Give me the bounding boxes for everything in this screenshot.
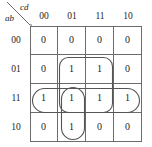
kmap-cell-r2c1[interactable]: 1 xyxy=(58,84,86,113)
column-header-3: 10 xyxy=(114,10,142,24)
karnaugh-map: cd ab 00 01 11 10 00 01 11 10 0 0 0 0 0 … xyxy=(0,0,152,147)
kmap-cell-r2c2[interactable]: 1 xyxy=(86,84,114,113)
column-header-0: 00 xyxy=(30,10,58,24)
column-variable-label: cd xyxy=(20,3,29,12)
kmap-cell-r0c0[interactable]: 0 xyxy=(30,26,58,55)
row-header-1: 01 xyxy=(4,55,28,84)
kmap-cell-r0c2[interactable]: 0 xyxy=(86,26,114,55)
column-header-1: 01 xyxy=(58,10,86,24)
row-header-0: 00 xyxy=(4,26,28,55)
kmap-cell-r1c0[interactable]: 0 xyxy=(30,55,58,84)
kmap-cell-r2c0[interactable]: 1 xyxy=(30,84,58,113)
kmap-cell-r0c3[interactable]: 0 xyxy=(114,26,142,55)
kmap-cell-r1c2[interactable]: 1 xyxy=(86,55,114,84)
kmap-cell-r3c1[interactable]: 1 xyxy=(58,113,86,142)
column-header-2: 11 xyxy=(86,10,114,24)
kmap-grid: 0 0 0 0 0 1 1 0 1 1 1 1 0 1 0 0 xyxy=(30,26,142,142)
row-variable-label: ab xyxy=(5,14,14,23)
kmap-cell-r3c2[interactable]: 0 xyxy=(86,113,114,142)
kmap-cell-r0c1[interactable]: 0 xyxy=(58,26,86,55)
kmap-cell-r2c3[interactable]: 1 xyxy=(114,84,142,113)
axis-variable-corner: cd ab xyxy=(4,1,32,26)
kmap-cell-r3c3[interactable]: 0 xyxy=(114,113,142,142)
kmap-cell-r1c3[interactable]: 0 xyxy=(114,55,142,84)
row-header-3: 10 xyxy=(4,113,28,142)
row-header-2: 11 xyxy=(4,84,28,113)
kmap-cell-r3c0[interactable]: 0 xyxy=(30,113,58,142)
kmap-cell-r1c1[interactable]: 1 xyxy=(58,55,86,84)
